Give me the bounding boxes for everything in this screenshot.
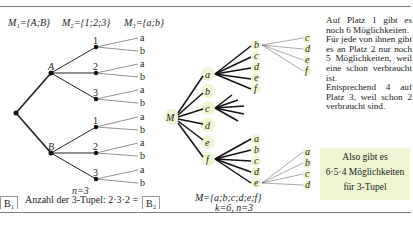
svg-text:1: 1 (93, 115, 98, 126)
b2-level3-labels: cd ef ab cd (305, 32, 311, 190)
set-m2: M₂={1;2;3} (61, 17, 110, 28)
conclusion-line2: 6·5·4 Möglichkeiten (320, 165, 410, 180)
svg-text:a: a (140, 111, 145, 122)
svg-text:b: b (140, 71, 145, 82)
svg-text:3: 3 (93, 167, 98, 178)
svg-text:a: a (140, 84, 145, 95)
svg-text:e: e (254, 72, 259, 83)
b1-tree (16, 38, 138, 183)
svg-text:e: e (254, 177, 259, 188)
svg-text:b: b (140, 124, 145, 135)
svg-text:b: b (140, 45, 145, 56)
svg-text:e: e (205, 137, 210, 148)
explanation-p3: Entsprechend 4 auf Platz 3, weil schon 2… (326, 83, 412, 112)
node-a: A (47, 61, 55, 72)
svg-text:c: c (254, 155, 259, 166)
svg-text:c: c (305, 32, 310, 43)
svg-text:b: b (205, 86, 210, 97)
svg-text:a: a (140, 164, 145, 175)
b2-tree (178, 46, 251, 183)
svg-text:b: b (305, 157, 310, 168)
set-m3: M₃={a;b} (123, 17, 164, 28)
svg-text:e: e (305, 54, 310, 65)
params-label: k=6, n=3 (215, 202, 253, 213)
svg-text:b: b (140, 97, 145, 108)
svg-text:1: 1 (93, 35, 98, 46)
svg-text:b: b (140, 150, 145, 161)
svg-text:3: 3 (93, 87, 98, 98)
svg-text:2: 2 (93, 141, 98, 152)
svg-text:a: a (205, 69, 210, 80)
explanation-p1: Auf Platz 1 gibt es noch 6 Möglichkeiten… (326, 16, 412, 35)
svg-text:a: a (305, 146, 310, 157)
svg-text:2: 2 (93, 61, 98, 72)
svg-text:a: a (140, 32, 145, 43)
node-b: B (48, 141, 54, 152)
count-label: Anzahl der 3-Tupel: 2·3·2 = 12 (25, 194, 151, 205)
root-m: M (165, 112, 175, 123)
conclusion-line3: für 3-Tupel (320, 180, 410, 195)
svg-text:a: a (254, 133, 259, 144)
b2-level1-labels: ab cd ef (205, 69, 211, 165)
svg-text:b: b (254, 39, 259, 50)
b1-level2-labels: 1 2 3 1 2 3 (93, 35, 98, 178)
svg-text:c: c (254, 50, 259, 61)
set-m1: M₁={A;B} (7, 17, 50, 28)
svg-text:b: b (140, 177, 145, 188)
conclusion-line1: Also gibt es (320, 150, 410, 165)
b1-nodes (14, 45, 99, 181)
explanation-text: Auf Platz 1 gibt es noch 6 Möglichkeiten… (326, 16, 412, 112)
conclusion-box: Also gibt es 6·5·4 Möglichkeiten für 3-T… (320, 148, 410, 200)
svg-text:c: c (305, 168, 310, 179)
explanation-p2: Für jede von ihnen gibt es an Platz 2 nu… (326, 35, 412, 83)
svg-text:a: a (140, 58, 145, 69)
panel-label-b2: B₂ (142, 196, 160, 209)
b2-level2-labels: bc de f ab cd e (254, 39, 260, 188)
svg-text:a: a (140, 137, 145, 148)
panel-label-b1: B₁ (0, 196, 18, 209)
svg-text:c: c (205, 103, 210, 114)
b2-subtree-lines (262, 38, 303, 185)
b1-level3-labels: ab ab ab ab ab ab (140, 32, 145, 188)
svg-text:b: b (254, 144, 259, 155)
